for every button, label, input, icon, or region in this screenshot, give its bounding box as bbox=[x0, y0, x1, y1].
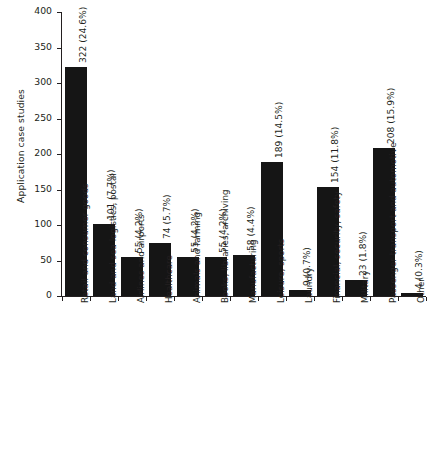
x-axis-category-label: Passenger transport and automotive bbox=[388, 142, 398, 303]
y-axis-tick-label: 0 bbox=[46, 289, 52, 300]
y-axis-tick-label: 100 bbox=[34, 218, 52, 229]
y-axis-tick-mark bbox=[57, 154, 61, 155]
x-axis-category-label: Leisure, sports bbox=[276, 239, 286, 303]
y-axis-tick-mark bbox=[57, 296, 61, 297]
y-axis-tick-mark bbox=[57, 12, 61, 13]
x-axis-category-label: Manufacturing bbox=[248, 239, 258, 303]
x-axis-tick-mark bbox=[342, 297, 343, 302]
x-axis-tick-mark bbox=[370, 297, 371, 302]
x-axis-category-label: Animals and farming bbox=[192, 212, 202, 303]
x-axis-category-label: Retail and consumer goods bbox=[80, 183, 90, 303]
y-axis-tick-mark bbox=[57, 190, 61, 191]
x-axis-category-label: Financial, security, safety bbox=[332, 191, 342, 303]
bar-value-label: 208 (15.9%) bbox=[387, 88, 396, 144]
x-axis-category-label: Land and sea logistics, postal bbox=[108, 173, 118, 303]
x-axis-category-label: Other bbox=[416, 278, 426, 303]
bar-value-label: 154 (11.8%) bbox=[331, 126, 340, 182]
y-axis-tick-label: 200 bbox=[34, 147, 52, 158]
bar-value-label: 23 (1.8%) bbox=[359, 231, 368, 276]
x-axis-tick-mark bbox=[174, 297, 175, 302]
y-axis-tick-mark bbox=[57, 48, 61, 49]
y-axis-tick-mark bbox=[57, 261, 61, 262]
x-axis-category-label: Military bbox=[360, 270, 370, 303]
y-axis-tick-label: 150 bbox=[34, 183, 52, 194]
bar-value-label: 189 (14.5%) bbox=[275, 102, 284, 158]
x-axis-tick-mark bbox=[314, 297, 315, 302]
y-axis-tick-label: 350 bbox=[34, 41, 52, 52]
x-axis-tick-mark bbox=[286, 297, 287, 302]
x-axis-category-label: Laundry bbox=[304, 267, 314, 303]
y-axis-tick-label: 50 bbox=[40, 254, 52, 265]
x-axis-tick-mark bbox=[90, 297, 91, 302]
y-axis-tick-label: 400 bbox=[34, 5, 52, 16]
x-axis-tick-mark bbox=[230, 297, 231, 302]
x-axis-tick-mark bbox=[258, 297, 259, 302]
y-axis-tick-mark bbox=[57, 225, 61, 226]
x-axis-tick-mark bbox=[62, 297, 63, 302]
y-axis-tick-mark bbox=[57, 83, 61, 84]
x-axis-category-label: Airlines and airports bbox=[136, 214, 146, 303]
y-axis-tick-mark bbox=[57, 119, 61, 120]
x-axis-tick-mark bbox=[202, 297, 203, 302]
bar-value-label: 322 (24.6%) bbox=[79, 7, 88, 63]
x-axis-tick-mark bbox=[118, 297, 119, 302]
bar-chart: Application case studies 050100150200250… bbox=[0, 0, 433, 466]
x-axis-tick-mark bbox=[426, 297, 427, 302]
x-axis-category-label: Books, libraries, archiving bbox=[220, 189, 230, 303]
x-axis-tick-mark bbox=[146, 297, 147, 302]
y-axis-tick-label: 300 bbox=[34, 76, 52, 87]
y-axis-tick-label: 250 bbox=[34, 112, 52, 123]
y-axis-title: Application case studies bbox=[14, 0, 28, 296]
bar-value-label: 74 (5.7%) bbox=[163, 195, 172, 240]
x-axis-category-label: Healthcare bbox=[164, 255, 174, 303]
x-axis-tick-mark bbox=[398, 297, 399, 302]
